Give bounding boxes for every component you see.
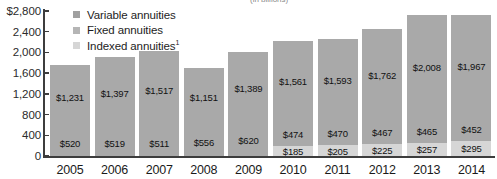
bar-group: $511$1,517 [139, 51, 179, 156]
bar-value-label-fixed-annuities: $467 [362, 127, 402, 138]
bar-group: $520$1,231 [50, 65, 90, 156]
x-axis-tick-label: 2014 [447, 163, 495, 177]
bar-value-label-fixed-annuities: $556 [184, 136, 224, 147]
bar-value-label-variable-annuities: $1,517 [139, 85, 179, 96]
bar-group: $295$452$1,967 [451, 15, 491, 156]
x-axis-tick-label: 2010 [269, 163, 317, 177]
x-axis-tick-label: 2009 [224, 163, 272, 177]
bar-value-label-variable-annuities: $1,389 [228, 82, 268, 93]
bar-group: $225$467$1,762 [362, 29, 402, 156]
annuity-assets-bar-chart: (in billions) 04008001,2001,6002,0002,40… [0, 0, 497, 179]
bar-value-label-fixed-annuities: $470 [318, 128, 358, 139]
bar-value-label-fixed-annuities: $620 [228, 134, 268, 145]
x-axis-tick-label: 2007 [135, 163, 183, 177]
bar-group: $519$1,397 [95, 57, 135, 156]
bar-value-label-indexed-annuities: $225 [362, 145, 402, 156]
bar-value-label-indexed-annuities: $185 [273, 146, 313, 157]
bar-value-label-indexed-annuities: $257 [407, 144, 447, 155]
bar-group: $185$474$1,561 [273, 41, 313, 156]
bar-value-label-variable-annuities: $1,762 [362, 69, 402, 80]
bar-value-label-fixed-annuities: $474 [273, 129, 313, 140]
bar-group: $620$1,389 [228, 52, 268, 156]
bar-value-label-fixed-annuities: $511 [139, 137, 179, 148]
bar-value-label-variable-annuities: $1,967 [451, 61, 491, 72]
x-axis-tick-label: 2008 [180, 163, 228, 177]
x-axis-tick-label: 2013 [403, 163, 451, 177]
bar-value-label-variable-annuities: $1,231 [50, 92, 90, 103]
bar-group: $556$1,151 [184, 68, 224, 156]
bar-series-layer: $520$1,2312005$519$1,3972006$511$1,51720… [0, 0, 497, 179]
x-axis-tick-label: 2006 [91, 163, 139, 177]
x-axis-tick-label: 2011 [314, 163, 362, 177]
bar-group: $257$465$2,008 [407, 15, 447, 156]
bar-value-label-variable-annuities: $1,151 [184, 92, 224, 103]
bar-group: $205$470$1,593 [318, 39, 358, 156]
bar-value-label-variable-annuities: $2,008 [407, 61, 447, 72]
bar-value-label-fixed-annuities: $452 [451, 124, 491, 135]
bar-value-label-fixed-annuities: $465 [407, 125, 447, 136]
bar-value-label-variable-annuities: $1,593 [318, 74, 358, 85]
bar-value-label-variable-annuities: $1,397 [95, 87, 135, 98]
bar-value-label-variable-annuities: $1,561 [273, 76, 313, 87]
bar-value-label-fixed-annuities: $520 [50, 137, 90, 148]
x-axis-tick-label: 2012 [358, 163, 406, 177]
bar-value-label-indexed-annuities: $205 [318, 145, 358, 156]
bar-value-label-fixed-annuities: $519 [95, 137, 135, 148]
bar-value-label-indexed-annuities: $295 [451, 143, 491, 154]
x-axis-tick-label: 2005 [46, 163, 94, 177]
